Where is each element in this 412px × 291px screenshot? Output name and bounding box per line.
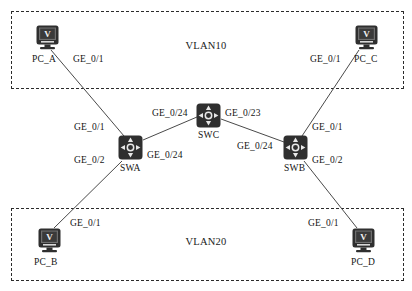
svg-text:V: V	[46, 232, 53, 242]
port-label-swc-left: GE_0/24	[152, 108, 188, 118]
port-label-pc_b-side: GE_0/1	[70, 218, 101, 228]
switch-icon	[118, 135, 143, 160]
link-swc-swb	[221, 119, 284, 142]
pc-monitor-icon: V	[355, 25, 378, 50]
port-label-swa-bottom: GE_0/2	[74, 155, 105, 165]
svg-text:V: V	[360, 232, 367, 242]
pc-monitor-icon: V	[352, 228, 375, 253]
device-label-pc_b: PC_B	[34, 257, 58, 267]
device-label-pc_a: PC_A	[32, 54, 56, 64]
port-label-swa-top: GE_0/1	[74, 122, 105, 132]
device-label-swc: SWC	[198, 130, 219, 140]
port-label-swb-top: GE_0/1	[312, 122, 343, 132]
device-label-pc_c: PC_C	[354, 54, 378, 64]
device-label-swb: SWB	[284, 163, 305, 173]
port-label-pc_d-side: GE_0/1	[308, 218, 339, 228]
switch-icon	[283, 135, 308, 160]
svg-text:V: V	[363, 29, 370, 39]
pc-monitor-icon: V	[36, 25, 59, 50]
pc-monitor-icon: V	[38, 228, 61, 253]
network-topology-diagram: VLAN10 VLAN20 V PC_A GE_0/1 V	[0, 0, 412, 291]
svg-text:V: V	[44, 29, 51, 39]
port-label-swa-right: GE_0/24	[147, 150, 183, 160]
device-label-swa: SWA	[120, 163, 141, 173]
device-label-pc_d: PC_D	[351, 257, 375, 267]
port-label-pc_c-side: GE_0/1	[310, 54, 341, 64]
port-label-pc_a-side: GE_0/1	[73, 54, 104, 64]
vlan10-label: VLAN10	[160, 40, 252, 51]
port-label-swc-right: GE_0/23	[225, 108, 261, 118]
switch-icon	[196, 103, 221, 128]
vlan20-label: VLAN20	[160, 236, 252, 247]
port-label-swb-bottom: GE_0/2	[312, 155, 343, 165]
link-swa-swc	[143, 117, 197, 140]
port-label-swb-left: GE_0/24	[237, 141, 273, 151]
